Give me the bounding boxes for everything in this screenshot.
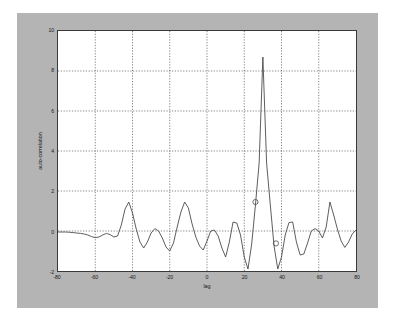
y-tick-label: 10 (44, 27, 54, 33)
x-tick-label: 40 (279, 274, 285, 280)
x-tick-label: -60 (91, 274, 98, 280)
y-tick-label: 4 (44, 148, 54, 154)
y-tick-label: 6 (44, 108, 54, 114)
y-tick-label: 0 (44, 229, 54, 235)
plot-axes (57, 30, 357, 272)
x-tick-label: 60 (317, 274, 323, 280)
x-tick-label: 0 (206, 274, 209, 280)
x-tick-label: 80 (354, 274, 360, 280)
y-tick-label: 2 (44, 188, 54, 194)
y-tick-label: -2 (44, 269, 54, 275)
figure-window: -80-60-40-20020406080 -20246810 lag auto… (17, 13, 378, 308)
x-tick-label: 20 (242, 274, 248, 280)
x-axis-label: lag (203, 283, 210, 289)
y-axis-label: auto-correlation (37, 132, 43, 169)
y-tick-label: 8 (44, 67, 54, 73)
x-tick-label: -20 (166, 274, 173, 280)
x-tick-label: -80 (53, 274, 60, 280)
plot-canvas (58, 31, 356, 271)
data-marker-group (253, 199, 279, 246)
x-tick-label: -40 (128, 274, 135, 280)
